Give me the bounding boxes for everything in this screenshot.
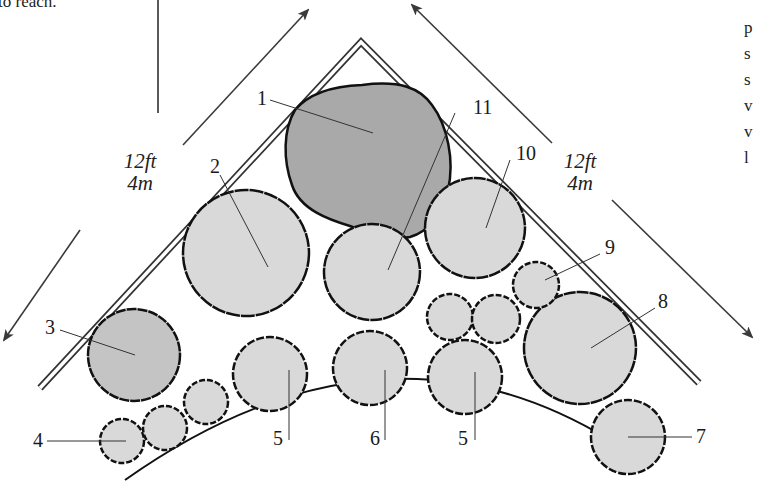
plant-label-1: 1 <box>257 88 267 108</box>
shrub-c <box>427 294 473 340</box>
plant-label-7: 7 <box>696 426 706 446</box>
plant-11 <box>324 224 420 320</box>
plant-5-right <box>428 340 502 414</box>
plant-2 <box>183 190 309 316</box>
dimension-ft: 12ft <box>550 150 610 172</box>
right-text-letter: v <box>744 96 753 116</box>
shrub-b <box>184 380 228 424</box>
plant-10 <box>425 178 525 278</box>
right-text-letter: p <box>744 18 753 38</box>
plant-6 <box>333 331 407 405</box>
right-text-letter: l <box>744 148 749 168</box>
dimension-label-left: 12ft 4m <box>110 150 170 194</box>
plant-label-9: 9 <box>605 237 615 257</box>
body-text-fragment: to reach. <box>0 0 57 12</box>
plant-label-8: 8 <box>658 291 668 311</box>
plant-label-10: 10 <box>516 143 536 163</box>
right-text-letter: s <box>744 44 751 64</box>
right-text-letter: v <box>744 122 753 142</box>
diagram-canvas <box>0 0 759 486</box>
plant-label-3: 3 <box>45 317 55 337</box>
plant-label-6: 6 <box>370 428 380 448</box>
plant-label-5b: 5 <box>458 428 468 448</box>
plant-label-2: 2 <box>210 156 220 176</box>
arrow-down-left-icon <box>4 230 80 340</box>
plant-label-4: 4 <box>33 430 43 450</box>
dimension-m: 4m <box>550 172 610 194</box>
dimension-m: 4m <box>110 172 170 194</box>
plant-9 <box>513 262 559 308</box>
plant-8 <box>524 292 636 404</box>
plant-label-11: 11 <box>473 97 492 117</box>
right-text-letter: s <box>744 70 751 90</box>
plant-5-left <box>233 337 307 411</box>
dimension-ft: 12ft <box>110 150 170 172</box>
plant-label-5a: 5 <box>273 428 283 448</box>
planting-diagram: to reach. p s s v v l 12ft 4m 12ft 4m 1 … <box>0 0 759 486</box>
dimension-label-right: 12ft 4m <box>550 150 610 194</box>
shrub-a <box>143 406 187 450</box>
shrub-d <box>472 295 520 343</box>
